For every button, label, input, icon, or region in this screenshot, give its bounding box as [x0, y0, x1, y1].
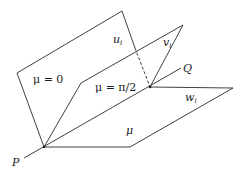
label-plane-mu-general: μ [126, 124, 133, 137]
label-vector-v: vi [163, 36, 171, 50]
label-plane-mu-zero: μ = 0 [33, 73, 63, 86]
label-vector-u: ui [113, 33, 122, 47]
vertex-q-dot [149, 86, 152, 89]
plane-mu-general [44, 87, 233, 147]
label-w-sub: i [194, 97, 196, 105]
label-q: Q [183, 62, 192, 75]
label-plane-mu-half-pi: μ = π/2 [95, 81, 136, 94]
diagram-canvas: P Q μ = 0 μ = π/2 μ ui vi wi [0, 0, 244, 174]
label-v-sub: i [169, 42, 171, 50]
label-vector-w: wi [185, 91, 197, 105]
label-u-base: u [113, 33, 120, 46]
label-u-sub: i [120, 39, 122, 47]
vertex-p-dot [43, 146, 46, 149]
label-p: P [11, 156, 20, 169]
